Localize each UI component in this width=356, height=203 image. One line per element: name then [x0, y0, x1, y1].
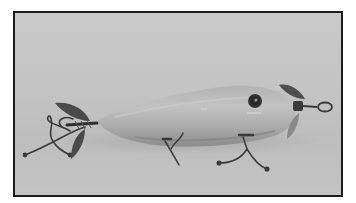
photo-frame: Vintage wooden fishing lure with front a… — [13, 11, 343, 197]
line-tie-icon — [303, 103, 332, 112]
lure-body — [97, 86, 296, 147]
lure-photograph — [15, 13, 341, 195]
lure-eye — [248, 94, 262, 108]
